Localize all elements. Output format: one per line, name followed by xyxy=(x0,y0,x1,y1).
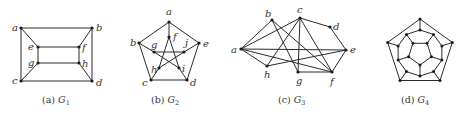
vertex-label-e: e xyxy=(28,41,34,52)
vertex xyxy=(440,44,443,47)
vertex-e xyxy=(344,48,347,51)
vertex-label-d: d xyxy=(333,21,339,32)
edge-mid xyxy=(420,30,434,34)
vertex-b xyxy=(90,26,93,29)
edge-outer xyxy=(420,19,452,42)
vertex-h xyxy=(157,66,160,69)
vertex-label-h: h xyxy=(264,69,270,80)
vertex-h xyxy=(265,64,268,67)
edge-a-b xyxy=(241,20,272,49)
edge-inner-spoke xyxy=(431,57,441,60)
vertex xyxy=(411,42,414,45)
edge-h-j xyxy=(159,52,184,68)
vertex xyxy=(419,18,422,21)
edge-mid xyxy=(434,34,442,46)
vertex-c xyxy=(298,16,301,19)
vertex xyxy=(440,59,443,62)
vertex-a xyxy=(19,26,22,29)
edge-mid xyxy=(398,34,406,46)
vertex-label-h: h xyxy=(82,58,88,69)
edge-inner xyxy=(427,43,431,56)
vertex-label-b: b xyxy=(265,8,271,19)
vertex-label-d: d xyxy=(96,77,102,88)
vertex-label-e: e xyxy=(350,44,356,55)
edge-spoke xyxy=(442,42,452,45)
vertex xyxy=(405,70,408,73)
vertex-g xyxy=(152,50,155,53)
vertex-label-g: g xyxy=(28,57,34,68)
vertex-label-f: f xyxy=(329,76,336,87)
vertex xyxy=(405,33,408,36)
vertex xyxy=(399,79,402,82)
vertex-label-c: c xyxy=(297,4,303,15)
vertex-e xyxy=(36,45,39,48)
vertex-g xyxy=(296,70,299,73)
edge-e-h xyxy=(267,50,346,66)
vertex-f xyxy=(77,45,80,48)
vertex-i xyxy=(177,66,180,69)
vertex-label-j: j xyxy=(183,37,188,48)
edge-inner xyxy=(420,57,431,65)
vertex xyxy=(397,59,400,62)
captions: (a) G1(b) G2(c) G3(d) G4 xyxy=(42,94,429,107)
graph-g3: abcdefgh xyxy=(231,4,356,87)
edge-c-h xyxy=(267,18,300,66)
edge-mid xyxy=(398,60,406,72)
vertex-f xyxy=(167,35,170,38)
vertex-label-g: g xyxy=(151,39,157,50)
vertex xyxy=(407,55,410,58)
edge-inner-spoke xyxy=(406,34,412,43)
vertex-label-f: f xyxy=(81,42,88,53)
vertex-j xyxy=(182,50,185,53)
vertex xyxy=(438,79,441,82)
caption-g4: (d) G4 xyxy=(401,94,429,107)
edge-spoke xyxy=(434,72,440,81)
graph-figure: abefghcd abecdfjghi abcdefgh (a) G1(b) G… xyxy=(0,0,459,115)
graph-g1: abefghcd xyxy=(12,22,102,88)
vertex-e xyxy=(197,41,200,44)
vertex xyxy=(419,64,422,67)
vertex-label-c: c xyxy=(142,77,148,88)
vertex xyxy=(430,55,433,58)
vertex-label-f: f xyxy=(172,31,179,42)
edge-inner xyxy=(409,57,420,65)
vertex-label-a: a xyxy=(166,6,172,17)
edge-a-e xyxy=(241,49,346,50)
vertex-h xyxy=(77,61,80,64)
vertex-b xyxy=(137,41,140,44)
vertex xyxy=(451,41,454,44)
vertex-c xyxy=(149,78,152,81)
edge-g-i xyxy=(154,52,179,68)
caption-g1: (a) G1 xyxy=(42,94,70,107)
vertex-label-c: c xyxy=(12,75,18,86)
graph-g2: abecdfjghi xyxy=(130,6,209,88)
vertex xyxy=(432,70,435,73)
vertex-label-e: e xyxy=(203,38,209,49)
vertex-d xyxy=(185,78,188,81)
vertex-c xyxy=(19,79,22,82)
vertex xyxy=(419,75,422,78)
edge-inner-spoke xyxy=(398,57,408,60)
edge-spoke xyxy=(388,42,398,45)
vertex-g xyxy=(36,61,39,64)
edge-inner xyxy=(409,43,413,56)
vertex-label-h: h xyxy=(151,64,157,75)
vertex-label-a: a xyxy=(231,44,237,55)
edge-mid xyxy=(420,72,434,76)
vertex-label-i: i xyxy=(182,63,185,74)
caption-g3: (c) G3 xyxy=(278,94,306,107)
edge-mid xyxy=(434,60,442,72)
edge-outer xyxy=(388,19,420,42)
caption-g2: (b) G2 xyxy=(151,94,179,107)
vertex xyxy=(397,44,400,47)
vertex-label-b: b xyxy=(96,22,102,33)
vertex-d xyxy=(90,79,93,82)
edge-mid xyxy=(406,72,420,76)
vertex-label-g: g xyxy=(296,75,302,86)
vertex-label-b: b xyxy=(130,37,136,48)
edge-a-c xyxy=(241,18,300,49)
vertex-d xyxy=(328,25,331,28)
edge-mid xyxy=(406,30,420,34)
vertex xyxy=(419,29,422,32)
vertex-a xyxy=(167,20,170,23)
